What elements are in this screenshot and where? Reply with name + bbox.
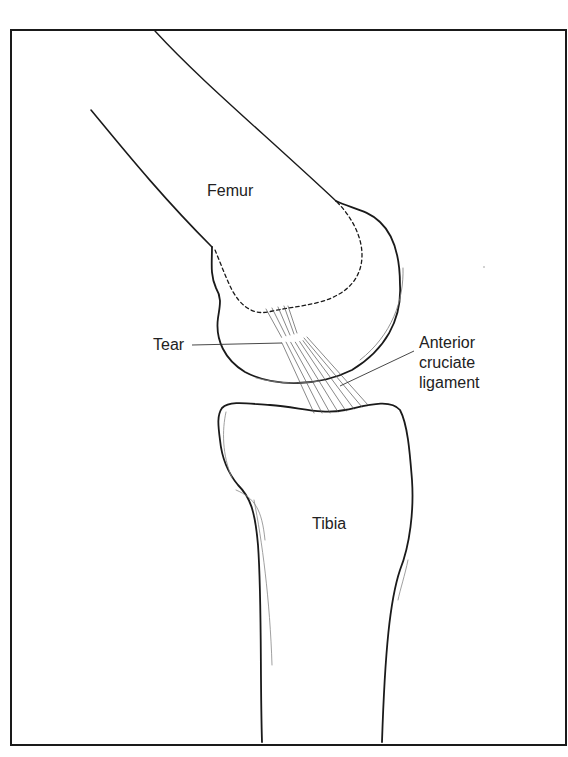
acl-label-line-2: cruciate — [419, 353, 479, 373]
femur-bone — [91, 31, 403, 383]
tibia-label: Tibia — [312, 514, 346, 534]
tear-gap — [280, 336, 304, 342]
acl-label-line-3: ligament — [419, 373, 479, 393]
knee-illustration — [0, 0, 568, 757]
acl-leader-line — [340, 351, 414, 386]
femur-label: Femur — [207, 181, 253, 201]
acl-ligament — [266, 306, 368, 413]
tear-label: Tear — [153, 335, 184, 355]
acl-label-line-1: Anterior — [419, 333, 479, 353]
acl-label: Anterior cruciate ligament — [419, 333, 479, 393]
speck — [483, 266, 485, 268]
tear-leader-line — [192, 343, 282, 345]
tibia-bone — [218, 403, 412, 742]
